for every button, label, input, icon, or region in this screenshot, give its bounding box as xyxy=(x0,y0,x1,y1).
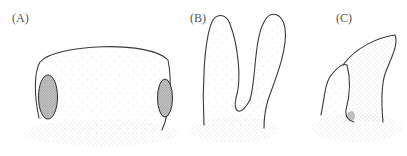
panel-c-front-fill xyxy=(321,65,352,121)
panel-b: (B) xyxy=(190,11,285,143)
panel-a: (A) xyxy=(12,11,180,146)
panel-a-right-oval xyxy=(158,79,173,117)
panel-c: (C) xyxy=(311,11,403,142)
panel-c-tall-fill xyxy=(348,36,396,122)
figure-canvas: (A) (B) (C) xyxy=(0,0,407,156)
panel-a-label: (A) xyxy=(12,11,29,25)
panel-b-body-fill xyxy=(203,14,285,128)
panel-a-body-fill xyxy=(40,47,168,137)
panel-a-left-oval xyxy=(39,75,58,119)
panel-c-label: (C) xyxy=(336,11,352,25)
panel-b-label: (B) xyxy=(190,11,206,25)
